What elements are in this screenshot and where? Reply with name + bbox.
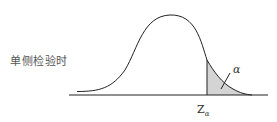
tail-area-alpha-label: α [233,63,240,76]
alpha-subscript: α [205,110,210,118]
one-tailed-test-label: 单侧检验时 [10,52,68,68]
z-symbol: Z [197,103,205,116]
rejection-region [207,60,252,95]
normal-curve [77,15,252,95]
critical-value-label: Zα [197,103,209,118]
